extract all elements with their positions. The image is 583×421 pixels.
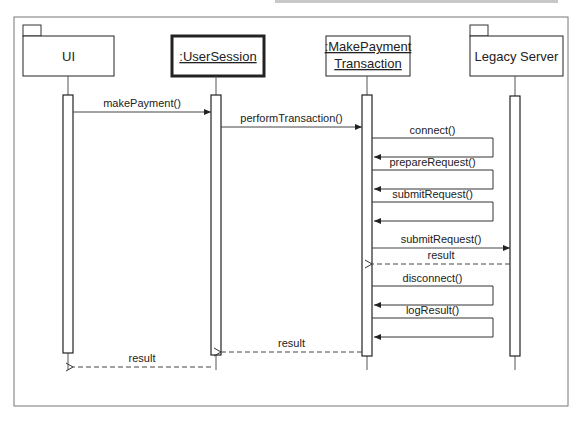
message-label: disconnect() [403, 272, 463, 284]
message-label: connect() [410, 124, 456, 136]
activation-bar-legacy [510, 96, 520, 356]
self-message-arrow [372, 318, 493, 337]
sequence-diagram: UI:UserSession:MakePaymentTransactionLeg… [0, 0, 583, 421]
message-label: performTransaction() [240, 112, 342, 124]
activation-bar-txn [362, 95, 372, 356]
package-tab [470, 25, 488, 36]
message-label: logResult() [406, 304, 459, 316]
participant-label-txn: Transaction [334, 56, 401, 71]
message-label: result [278, 337, 305, 349]
participant-label-ui: UI [62, 49, 75, 64]
message-label: prepareRequest() [389, 156, 475, 168]
self-message-arrow [372, 170, 493, 189]
message-label: result [428, 249, 455, 261]
participant-label-txn: :MakePayment [325, 39, 412, 54]
message-label: result [129, 352, 156, 364]
activation-bar-ui [63, 95, 73, 353]
participant-label-legacy: Legacy Server [475, 49, 559, 64]
participant-label-session: :UserSession [179, 49, 256, 64]
self-message-arrow [372, 202, 493, 221]
self-message-arrow [372, 138, 493, 157]
activation-bar-session [211, 95, 221, 355]
self-message-arrow [372, 286, 493, 305]
message-label: makePayment() [103, 97, 181, 109]
message-label: submitRequest() [392, 188, 473, 200]
message-label: submitRequest() [401, 233, 482, 245]
package-tab [23, 25, 41, 36]
